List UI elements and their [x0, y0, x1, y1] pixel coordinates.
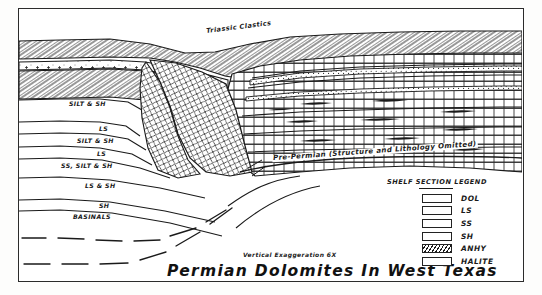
- legend-swatch-anhy-icon: [422, 244, 452, 253]
- legend-label-dol: DOL: [461, 194, 480, 203]
- legend-swatch-ls-icon: [422, 206, 452, 215]
- shelf-section-legend: SHELF SECTION LEGEND DOL LS: [385, 178, 511, 268]
- legend-label-ss: SS: [461, 219, 472, 228]
- basin-sweep-curves: [228, 176, 320, 228]
- legend-item-dol: DOL: [422, 192, 511, 205]
- label-unit-ls-sh: LS & SH: [84, 183, 117, 189]
- label-unit-silt-sh-upper: SILT & SH: [68, 101, 107, 107]
- legend-label-ls: LS: [461, 206, 472, 215]
- legend-item-sh: SH: [422, 230, 511, 243]
- legend-label-halite: HALITE: [461, 257, 493, 266]
- legend-item-ls: LS: [422, 205, 511, 218]
- legend-swatch-dol-icon: [422, 194, 452, 203]
- legend-item-ss: SS: [422, 217, 511, 230]
- legend-swatch-halite-icon: [422, 257, 452, 266]
- legend-item-anhy: ANHY: [422, 242, 511, 255]
- basinal-dashed-horizons: [22, 208, 232, 264]
- label-unit-silt-sh-mid: SILT & SH: [76, 138, 115, 144]
- legend-label-anhy: ANHY: [461, 244, 486, 253]
- legend-item-halite: HALITE: [422, 255, 511, 268]
- legend-label-sh: SH: [461, 232, 474, 241]
- label-unit-ss-silt-sh: SS, SILT & SH: [60, 163, 114, 169]
- label-unit-ls-upper: LS: [98, 126, 109, 132]
- legend-title: SHELF SECTION LEGEND: [385, 178, 511, 186]
- legend-underline: [419, 188, 453, 189]
- label-unit-sh: SH: [98, 203, 110, 209]
- geologic-cross-section-figure: Triassic Clastics Pre-Permian (Structure…: [0, 0, 542, 295]
- label-unit-basinals: BASINALS: [72, 214, 112, 220]
- label-vertical-exaggeration: Vertical Exaggeration 6X: [242, 252, 337, 258]
- label-unit-ls-mid: LS: [96, 151, 107, 157]
- legend-swatch-sh-icon: [422, 232, 452, 241]
- legend-swatch-ss-icon: [422, 219, 452, 228]
